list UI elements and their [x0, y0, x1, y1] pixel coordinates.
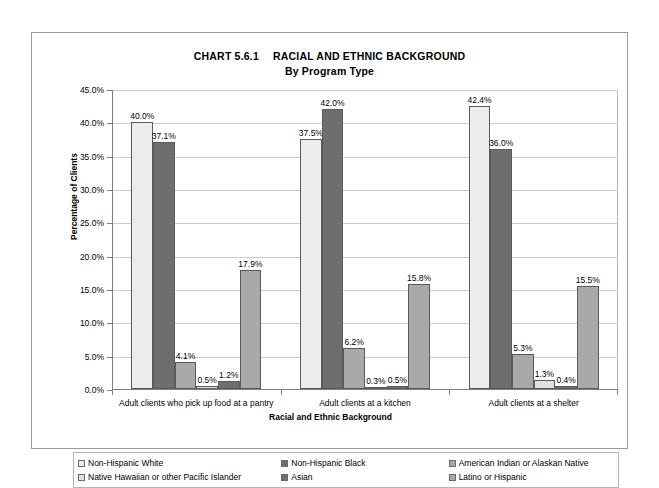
- bar-value-label: 1.2%: [219, 370, 238, 380]
- bar-value-label: 4.1%: [176, 351, 195, 361]
- chart-frame: CHART 5.6.1RACIAL AND ETHNIC BACKGROUND …: [31, 32, 628, 449]
- bar: 0.5%: [387, 386, 409, 389]
- chart-title-main: RACIAL AND ETHNIC BACKGROUND: [273, 50, 465, 62]
- bar-value-label: 15.5%: [576, 275, 600, 285]
- y-axis-tick: [107, 123, 112, 124]
- y-axis-tick-label: 10.0%: [80, 318, 104, 328]
- x-axis-title: Racial and Ethnic Background: [32, 412, 629, 422]
- legend-item-american-indian-or-alaskan-native: American Indian or Alaskan Native: [445, 459, 618, 468]
- gridline: [112, 323, 618, 324]
- legend-swatch-icon: [449, 460, 456, 467]
- y-axis-tick: [107, 90, 112, 91]
- bar-value-label: 0.4%: [556, 375, 575, 385]
- x-axis-category-label: Adult clients at a shelter: [489, 398, 579, 408]
- legend-label: American Indian or Alaskan Native: [459, 459, 589, 468]
- legend-item-asian: Asian: [277, 473, 444, 482]
- gridline: [112, 190, 618, 191]
- chart-legend: Non-Hispanic White Non-Hispanic Black Am…: [73, 452, 619, 488]
- legend-label: Non-Hispanic Black: [291, 459, 365, 468]
- bar: 0.5%: [196, 386, 218, 389]
- chart-title-line-1: CHART 5.6.1RACIAL AND ETHNIC BACKGROUND: [32, 49, 627, 64]
- legend-label: Native Hawaiian or other Pacific Islande…: [88, 473, 241, 482]
- x-axis-tick: [281, 390, 282, 395]
- gridline: [112, 123, 618, 124]
- bar-value-label: 36.0%: [489, 138, 513, 148]
- y-axis-tick-label: 0.0%: [85, 385, 104, 395]
- gridline: [112, 290, 618, 291]
- bar: 36.0%: [490, 149, 512, 389]
- legend-swatch-icon: [78, 460, 85, 467]
- y-axis-tick-label: 25.0%: [80, 218, 104, 228]
- legend-label: Non-Hispanic White: [88, 459, 163, 468]
- bar: 6.2%: [343, 348, 365, 389]
- bar: 37.1%: [153, 142, 175, 389]
- bar: 42.0%: [322, 109, 344, 389]
- bar-value-label: 15.8%: [407, 273, 431, 283]
- bar-value-label: 6.2%: [344, 337, 363, 347]
- bar-value-label: 40.0%: [130, 111, 154, 121]
- y-axis-tick: [107, 290, 112, 291]
- gridline: [112, 157, 618, 158]
- bar: 37.5%: [300, 139, 322, 389]
- bar-value-label: 17.9%: [238, 259, 262, 269]
- legend-label: Asian: [291, 473, 312, 482]
- x-axis-tick: [617, 390, 618, 395]
- legend-label: Latino or Hispanic: [459, 473, 527, 482]
- gridline: [112, 223, 618, 224]
- x-axis-category-label: Adult clients at a kitchen: [319, 398, 411, 408]
- y-axis-tick: [107, 257, 112, 258]
- legend-swatch-icon: [449, 474, 456, 481]
- y-axis-tick: [107, 323, 112, 324]
- legend-item-non-hispanic-white: Non-Hispanic White: [74, 459, 277, 468]
- bar: 1.2%: [218, 381, 240, 389]
- y-axis-tick-label: 5.0%: [85, 352, 104, 362]
- legend-item-latino-or-hispanic: Latino or Hispanic: [445, 473, 618, 482]
- bar: 17.9%: [240, 270, 262, 389]
- legend-row-1: Non-Hispanic White Non-Hispanic Black Am…: [74, 456, 618, 470]
- bar-value-label: 5.3%: [513, 343, 532, 353]
- bar: 15.8%: [408, 284, 430, 389]
- plot-area-wrapper: 0.0%5.0%10.0%15.0%20.0%25.0%30.0%35.0%40…: [112, 90, 618, 390]
- y-axis-tick: [107, 223, 112, 224]
- bar-value-label: 37.1%: [152, 131, 176, 141]
- gridline: [112, 90, 618, 91]
- y-axis-tick: [107, 157, 112, 158]
- bar-value-label: 0.3%: [366, 376, 385, 386]
- y-axis-tick: [107, 357, 112, 358]
- bar-value-label: 1.3%: [535, 369, 554, 379]
- x-axis-line: [112, 389, 618, 390]
- bar: 1.3%: [534, 380, 556, 389]
- chart-subtitle: By Program Type: [32, 64, 627, 79]
- bar: 42.4%: [469, 106, 491, 389]
- bar-value-label: 0.5%: [388, 375, 407, 385]
- y-axis-tick-label: 30.0%: [80, 185, 104, 195]
- legend-row-2: Native Hawaiian or other Pacific Islande…: [74, 470, 618, 484]
- bar: 0.4%: [555, 386, 577, 389]
- bar: 4.1%: [175, 362, 197, 389]
- legend-swatch-icon: [78, 474, 85, 481]
- legend-swatch-icon: [281, 474, 288, 481]
- bar-value-label: 42.0%: [320, 98, 344, 108]
- x-axis-tick: [449, 390, 450, 395]
- legend-item-non-hispanic-black: Non-Hispanic Black: [277, 459, 444, 468]
- bar-value-label: 42.4%: [467, 95, 491, 105]
- bar: 40.0%: [131, 122, 153, 389]
- chart-number: CHART 5.6.1: [194, 50, 259, 62]
- x-axis-tick: [112, 390, 113, 395]
- plot-area: [112, 90, 618, 390]
- bar: 5.3%: [512, 354, 534, 389]
- y-axis-line: [112, 90, 113, 390]
- chart-title-block: CHART 5.6.1RACIAL AND ETHNIC BACKGROUND …: [32, 49, 627, 79]
- y-axis-title: Percentage of Clients: [69, 153, 79, 240]
- bar: 0.3%: [365, 387, 387, 389]
- bar-value-label: 37.5%: [299, 128, 323, 138]
- y-axis-tick-label: 20.0%: [80, 252, 104, 262]
- legend-swatch-icon: [281, 460, 288, 467]
- y-axis-tick-label: 15.0%: [80, 285, 104, 295]
- bar-value-label: 0.5%: [197, 375, 216, 385]
- bar: 15.5%: [577, 286, 599, 389]
- y-axis-tick: [107, 190, 112, 191]
- y-axis-tick-label: 40.0%: [80, 118, 104, 128]
- y-axis-tick-label: 35.0%: [80, 152, 104, 162]
